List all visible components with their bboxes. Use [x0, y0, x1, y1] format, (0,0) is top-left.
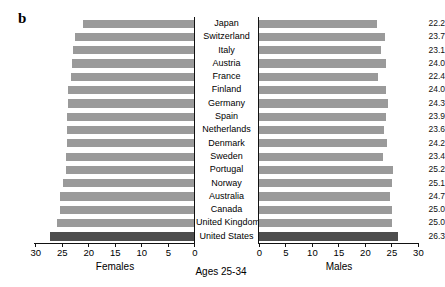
- male-bar: [259, 153, 383, 161]
- male-bar: [259, 59, 386, 67]
- right-axis-vertical-spine: [258, 17, 259, 243]
- male-bar-track: [259, 190, 418, 203]
- category-label: Austria: [196, 57, 257, 70]
- category-label: Spain: [196, 110, 257, 123]
- male-bar-track: [259, 163, 418, 176]
- female-bar-track: [35, 110, 194, 123]
- male-bar-track: [259, 44, 418, 57]
- male-bar: [259, 192, 390, 200]
- male-bar: [259, 86, 386, 94]
- male-bar-track: [259, 216, 418, 229]
- bar-row: 23.1Austria24.0: [0, 57, 440, 70]
- female-bar: [75, 33, 194, 41]
- male-bar-track: [259, 30, 418, 43]
- male-bar-track: [259, 203, 418, 216]
- bar-row: 22.4Switzerland23.7: [0, 30, 440, 43]
- category-label: United States: [196, 230, 257, 243]
- bar-row: 23.9Netherlands23.6: [0, 123, 440, 136]
- male-bar: [259, 232, 398, 240]
- male-value-label: 24.7: [421, 190, 445, 203]
- male-value-label: 23.6: [421, 123, 445, 136]
- female-bar-track: [35, 97, 194, 110]
- category-label: Switzerland: [196, 30, 257, 43]
- female-bar: [57, 219, 194, 227]
- male-bar-track: [259, 97, 418, 110]
- category-label: Japan: [196, 17, 257, 30]
- bar-row: 24.1Sweden23.4: [0, 150, 440, 163]
- bar-row: 25.3Australia24.7: [0, 190, 440, 203]
- female-bar: [60, 206, 194, 214]
- bar-rows-container: 20.9Japan22.222.4Switzerland23.722.9Ital…: [0, 17, 440, 243]
- female-bar-track: [35, 230, 194, 243]
- female-bar-track: [35, 177, 194, 190]
- female-bar: [67, 126, 194, 134]
- female-bar: [67, 139, 194, 147]
- male-bar: [259, 179, 392, 187]
- female-bar-track: [35, 44, 194, 57]
- female-bar: [63, 179, 194, 187]
- bar-row: 25.8United Kingdom25.0: [0, 216, 440, 229]
- male-bar: [259, 99, 388, 107]
- male-bar: [259, 113, 386, 121]
- female-bar-track: [35, 163, 194, 176]
- bar-row: 23.7Germany24.3: [0, 97, 440, 110]
- female-bar: [68, 86, 194, 94]
- male-value-label: 26.3: [421, 230, 445, 243]
- male-bar-track: [259, 17, 418, 30]
- male-bar-track: [259, 137, 418, 150]
- category-label: Netherlands: [196, 123, 257, 136]
- category-label: France: [196, 70, 257, 83]
- bar-row: 23.9Denmark24.2: [0, 137, 440, 150]
- male-value-label: 23.7: [421, 30, 445, 43]
- female-bar: [67, 113, 194, 121]
- male-bar: [259, 20, 377, 28]
- male-bar: [259, 73, 378, 81]
- female-bar: [83, 20, 194, 28]
- male-bar-track: [259, 230, 418, 243]
- male-value-label: 23.9: [421, 110, 445, 123]
- female-bar-track: [35, 30, 194, 43]
- bar-row: 25.3Canada25.0: [0, 203, 440, 216]
- male-bar: [259, 139, 387, 147]
- male-bar: [259, 126, 384, 134]
- male-bar-track: [259, 177, 418, 190]
- right-axis-tick-label: 10: [300, 247, 324, 258]
- female-bar-track: [35, 57, 194, 70]
- category-label: Canada: [196, 203, 257, 216]
- male-bar: [259, 219, 392, 227]
- male-value-label: 25.1: [421, 177, 445, 190]
- female-bar-track: [35, 190, 194, 203]
- bar-row: 23.9Spain23.9: [0, 110, 440, 123]
- category-label: Sweden: [196, 150, 257, 163]
- bar-row: 20.9Japan22.2: [0, 17, 440, 30]
- bar-row: 23.2France22.4: [0, 70, 440, 83]
- male-value-label: 24.2: [421, 137, 445, 150]
- category-label: United Kingdom: [196, 216, 257, 229]
- female-bar-track: [35, 137, 194, 150]
- male-value-label: 22.4: [421, 70, 445, 83]
- category-label: Denmark: [196, 137, 257, 150]
- female-bar: [66, 166, 194, 174]
- female-bar: [60, 192, 194, 200]
- bar-row: 23.7Finland24.0: [0, 83, 440, 96]
- category-label: Norway: [196, 177, 257, 190]
- male-bar-track: [259, 150, 418, 163]
- male-bar: [259, 46, 381, 54]
- male-bar-track: [259, 123, 418, 136]
- right-axis-tick-label: 20: [353, 247, 377, 258]
- category-label: Portugal: [196, 163, 257, 176]
- left-axis-title: Females: [54, 261, 176, 272]
- male-bar: [259, 166, 393, 174]
- bar-row: 22.9Italy23.1: [0, 44, 440, 57]
- right-axis-tick-label: 30: [406, 247, 430, 258]
- male-value-label: 23.1: [421, 44, 445, 57]
- male-value-label: 25.2: [421, 163, 445, 176]
- female-bar-track: [35, 70, 194, 83]
- female-bar: [50, 232, 194, 240]
- female-bar-track: [35, 123, 194, 136]
- female-bar: [72, 59, 194, 67]
- right-axis-tick-label: 5: [274, 247, 298, 258]
- female-bar: [71, 73, 194, 81]
- male-value-label: 25.0: [421, 216, 445, 229]
